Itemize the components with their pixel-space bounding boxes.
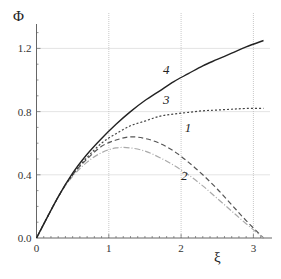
x-tick-label: 1 [106, 242, 112, 254]
y-tick-label: 1.2 [18, 42, 32, 54]
curve-label-2: 2 [181, 168, 188, 183]
x-tick-label: 2 [178, 242, 184, 254]
grid [37, 12, 271, 238]
series-group [37, 41, 264, 239]
y-axis-label: Φ [13, 8, 24, 24]
curve-label-3: 3 [162, 92, 170, 107]
curve-label-4: 4 [163, 62, 170, 77]
curve-label-1: 1 [185, 120, 192, 135]
y-tick-label: 0.4 [18, 169, 32, 181]
series-3-line [37, 108, 264, 238]
series-2-line [37, 147, 264, 238]
x-tick-label: 0 [34, 242, 40, 254]
y-tick-label: 0.0 [18, 232, 32, 244]
y-tick-label: 0.8 [18, 106, 32, 118]
axes: 01230.00.40.81.2Φξ [13, 8, 272, 265]
chart: 01230.00.40.81.2Φξ 1234 [0, 0, 281, 279]
x-axis-label: ξ [214, 249, 221, 265]
series-1-line [37, 137, 264, 238]
x-tick-label: 3 [251, 242, 257, 254]
